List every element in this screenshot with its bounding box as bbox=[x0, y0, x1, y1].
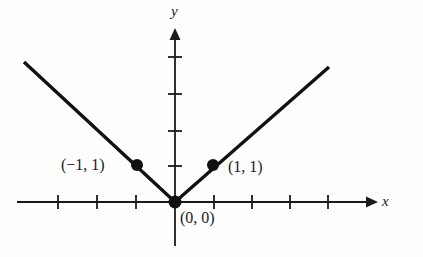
point-label-one-one: (1, 1) bbox=[228, 159, 263, 175]
point-neg-one-one bbox=[131, 159, 143, 171]
y-axis-arrowhead bbox=[170, 28, 181, 40]
y-axis-label: y bbox=[171, 4, 178, 19]
absolute-value-curve bbox=[24, 62, 329, 202]
x-axis-arrowhead bbox=[366, 197, 378, 208]
point-origin bbox=[169, 196, 182, 209]
graph-figure: y x (−1, 1) (1, 1) (0, 0) bbox=[0, 0, 423, 257]
point-label-origin: (0, 0) bbox=[180, 210, 215, 226]
x-axis-label: x bbox=[382, 194, 389, 209]
point-one-one bbox=[207, 159, 219, 171]
point-label-neg-one-one: (−1, 1) bbox=[61, 157, 105, 173]
